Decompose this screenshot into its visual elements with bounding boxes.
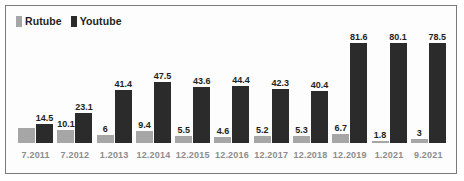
bar-wrapper-youtube: 81.6: [350, 32, 367, 143]
bar-youtube[interactable]: [115, 90, 132, 143]
legend-label-rutube: Rutube: [25, 16, 62, 27]
bar-youtube[interactable]: [75, 113, 92, 143]
plot-area: 14.510.123.1641.49.447.55.543.64.644.45.…: [16, 32, 448, 165]
bar-rutube[interactable]: [332, 134, 349, 143]
bar-wrapper-youtube: 44.4: [232, 32, 249, 143]
bar-value-label: 23.1: [75, 102, 93, 112]
x-axis-tick-label: 12.2015: [173, 150, 212, 160]
bar-group: 4.644.4: [212, 32, 251, 143]
bar-group: 10.123.1: [55, 32, 94, 143]
bar-rutube[interactable]: [214, 137, 231, 143]
bar-rutube[interactable]: [18, 128, 35, 143]
bar-wrapper-rutube: 6.7: [332, 32, 349, 143]
x-axis-tick-label: 1.2021: [369, 150, 408, 160]
bar-value-label: 43.6: [193, 76, 211, 86]
bar-rutube[interactable]: [97, 135, 114, 143]
bar-rutube[interactable]: [254, 136, 271, 143]
bar-youtube[interactable]: [232, 86, 249, 143]
x-axis-tick-label: 12.2016: [212, 150, 251, 160]
bar-group: 9.447.5: [134, 32, 173, 143]
bar-youtube[interactable]: [429, 43, 446, 143]
bar-youtube[interactable]: [154, 82, 171, 143]
bar-group: 5.242.3: [252, 32, 291, 143]
x-axis-tick-label: 7.2012: [55, 150, 94, 160]
bar-value-label: 9.4: [138, 120, 151, 130]
bar-group: 641.4: [95, 32, 134, 143]
bar-value-label: 3: [417, 128, 422, 138]
x-axis-tick-label: 12.2017: [252, 150, 291, 160]
bar-group: 5.543.6: [173, 32, 212, 143]
bar-rutube[interactable]: [293, 136, 310, 143]
bar-youtube[interactable]: [36, 124, 53, 143]
bar-youtube[interactable]: [390, 43, 407, 143]
x-axis-tick-label: 12.2018: [291, 150, 330, 160]
bar-wrapper-youtube: 14.5: [36, 32, 53, 143]
bar-wrapper-youtube: 40.4: [311, 32, 328, 143]
bar-group: 5.340.4: [291, 32, 330, 143]
bar-youtube[interactable]: [272, 89, 289, 143]
bar-wrapper-youtube: 42.3: [272, 32, 289, 143]
x-axis-tick-label: 1.2013: [95, 150, 134, 160]
chart-legend: Rutube Youtube: [16, 15, 122, 27]
bar-youtube[interactable]: [350, 43, 367, 143]
bar-wrapper-rutube: 5.3: [293, 32, 310, 143]
bar-value-label: 47.5: [154, 71, 172, 81]
bar-youtube[interactable]: [311, 91, 328, 143]
bar-wrapper-rutube: [18, 32, 35, 143]
bar-value-label: 1.8: [374, 130, 387, 140]
x-axis-tick-label: 12.2019: [330, 150, 369, 160]
bar-group: 1.880.1: [369, 32, 408, 143]
bar-value-label: 81.6: [350, 32, 368, 42]
bar-wrapper-rutube: 4.6: [214, 32, 231, 143]
bar-wrapper-rutube: 3: [411, 32, 428, 143]
bar-rutube[interactable]: [411, 139, 428, 143]
bar-value-label: 41.4: [114, 79, 132, 89]
bar-group: 6.781.6: [330, 32, 369, 143]
bar-value-label: 78.5: [429, 32, 447, 42]
bar-value-label: 40.4: [311, 80, 329, 90]
bar-value-label: 5.2: [256, 125, 269, 135]
legend-item-youtube[interactable]: Youtube: [71, 16, 122, 27]
legend-item-rutube[interactable]: Rutube: [16, 16, 62, 27]
square-swatch-icon: [71, 16, 77, 27]
bar-wrapper-rutube: 6: [97, 32, 114, 143]
x-axis: 7.20117.20121.201312.201412.201512.20161…: [16, 145, 448, 165]
bar-wrapper-youtube: 41.4: [115, 32, 132, 143]
legend-label-youtube: Youtube: [80, 16, 122, 27]
bar-rutube[interactable]: [136, 131, 153, 143]
x-axis-tick-label: 9.2021: [409, 150, 448, 160]
bar-rutube[interactable]: [372, 141, 389, 143]
bar-wrapper-rutube: 10.1: [57, 32, 74, 143]
bar-wrapper-youtube: 78.5: [429, 32, 446, 143]
bar-value-label: 10.1: [57, 119, 75, 129]
bar-group: 14.5: [16, 32, 55, 143]
bar-wrapper-youtube: 47.5: [154, 32, 171, 143]
bar-youtube[interactable]: [193, 87, 210, 143]
bar-value-label: 42.3: [271, 78, 289, 88]
bar-wrapper-rutube: 5.5: [175, 32, 192, 143]
bar-value-label: 5.3: [295, 125, 308, 135]
bar-value-label: 6.7: [334, 123, 347, 133]
bar-wrapper-rutube: 5.2: [254, 32, 271, 143]
x-axis-tick-label: 12.2014: [134, 150, 173, 160]
square-swatch-icon: [16, 16, 22, 27]
bar-value-label: 44.4: [232, 75, 250, 85]
bar-group: 378.5: [409, 32, 448, 143]
bars-area: 14.510.123.1641.49.447.55.543.64.644.45.…: [16, 32, 448, 143]
bar-wrapper-rutube: 1.8: [372, 32, 389, 143]
bar-rutube[interactable]: [57, 130, 74, 143]
bar-wrapper-rutube: 9.4: [136, 32, 153, 143]
bar-value-label: 6: [103, 124, 108, 134]
bar-value-label: 14.5: [36, 113, 54, 123]
bar-value-label: 5.5: [177, 125, 190, 135]
x-axis-tick-label: 7.2011: [16, 150, 55, 160]
bar-wrapper-youtube: 23.1: [75, 32, 92, 143]
bar-rutube[interactable]: [175, 136, 192, 143]
bar-value-label: 4.6: [217, 126, 230, 136]
bar-value-label: 80.1: [389, 32, 407, 42]
bar-wrapper-youtube: 43.6: [193, 32, 210, 143]
chart-container: Rutube Youtube 14.510.123.1641.49.447.55…: [5, 5, 457, 174]
bar-wrapper-youtube: 80.1: [390, 32, 407, 143]
